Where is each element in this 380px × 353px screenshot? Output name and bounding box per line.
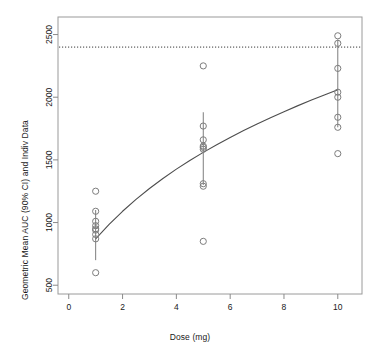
y-axis-ticks: 5001000150020002500 xyxy=(44,25,58,292)
x-axis-ticks: 0246810 xyxy=(66,294,342,312)
plot-area: 0246810 5001000150020002500 xyxy=(0,0,380,353)
data-point-circle xyxy=(200,63,206,69)
y-tick-label: 1500 xyxy=(44,150,54,169)
data-point-circle xyxy=(335,33,341,39)
y-tick-label: 1000 xyxy=(44,213,54,232)
model-fit-curve xyxy=(96,90,338,239)
plot-border xyxy=(58,17,362,294)
data-point-circle xyxy=(200,238,206,244)
x-axis-label: Dose (mg) xyxy=(0,332,380,342)
x-tick-label: 8 xyxy=(282,302,287,312)
data-point-circle xyxy=(335,151,341,157)
y-axis-label: Geometric Mean AUC (90% CI) and Indiv Da… xyxy=(20,120,30,300)
y-tick-label: 2500 xyxy=(44,25,54,44)
y-tick-label: 500 xyxy=(44,278,54,292)
x-tick-label: 10 xyxy=(333,302,343,312)
x-tick-label: 0 xyxy=(66,302,71,312)
data-points xyxy=(93,33,341,276)
fit-curve xyxy=(96,90,338,239)
x-tick-label: 6 xyxy=(228,302,233,312)
x-tick-label: 4 xyxy=(174,302,179,312)
data-point-circle xyxy=(93,270,99,276)
y-tick-label: 2000 xyxy=(44,87,54,106)
error-bars xyxy=(96,40,338,261)
plot-frame xyxy=(58,17,362,294)
data-point-circle xyxy=(93,188,99,194)
x-tick-label: 2 xyxy=(120,302,125,312)
chart-figure: 0246810 5001000150020002500 Geometric Me… xyxy=(0,0,380,353)
